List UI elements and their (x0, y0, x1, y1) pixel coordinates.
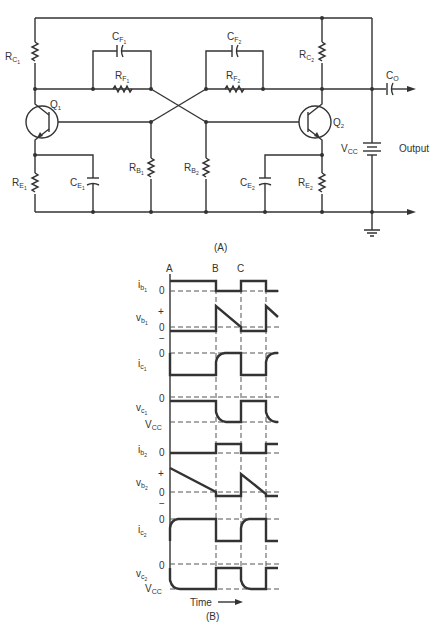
q1-transistor (26, 89, 151, 155)
output-arrow-icon (407, 86, 416, 92)
rb2-label: RB2 (184, 162, 199, 176)
wire (265, 155, 322, 212)
circuit-diagram: RC1 CF1 RF1 Q1 RB1 RB2 RE1 CE1 CF2 RF2 R… (5, 16, 429, 253)
re2-resistor (319, 173, 325, 192)
ic1-label: ic1 (138, 358, 147, 372)
co-label: CO (386, 70, 399, 82)
arrow-right-icon (235, 599, 243, 605)
rb1-label: RB1 (129, 162, 144, 176)
junction-dot (204, 210, 208, 214)
q2-label: Q2 (333, 117, 345, 129)
marker-c: C (237, 263, 244, 274)
re1-label: RE1 (12, 177, 27, 191)
ground-icon (364, 230, 380, 236)
rf2-resistor (225, 86, 244, 92)
part-a-caption: (A) (214, 242, 227, 253)
ce2-label: CE2 (240, 177, 255, 191)
vc2-vcc: VCC (145, 583, 162, 595)
junction-dot (320, 210, 324, 214)
rb2-resistor (203, 158, 209, 177)
ic2-label: ic2 (138, 524, 147, 538)
vc1-label: vc1 (136, 402, 148, 416)
cf1-label: CF1 (112, 31, 127, 45)
wire (206, 51, 263, 89)
junction-dot (370, 210, 374, 214)
cf2-label: CF2 (227, 31, 242, 45)
re1-resistor (32, 173, 38, 192)
junction-dot (204, 120, 208, 124)
vb1-zero: 0 (159, 322, 165, 333)
vb2-plus: + (158, 468, 164, 479)
vb1-label: vb1 (136, 312, 148, 326)
ic1-zero: 0 (159, 348, 165, 359)
ib2-waveform (170, 444, 278, 453)
output-label: Output (399, 143, 429, 154)
vb1-minus: − (159, 333, 165, 344)
ib1-label: ib1 (138, 279, 147, 293)
vc2-zero: 0 (159, 560, 165, 571)
vc1-waveform (170, 401, 278, 422)
vc1-zero: 0 (159, 393, 165, 404)
rb1-resistor (148, 158, 154, 177)
rf1-label: RF1 (115, 70, 130, 84)
ib2-label: ib2 (138, 444, 147, 458)
vb1-plus: + (158, 306, 164, 317)
multivibrator-figure: RC1 CF1 RF1 Q1 RB1 RB2 RE1 CE1 CF2 RF2 R… (0, 0, 444, 622)
vb2-minus: − (159, 498, 165, 509)
vc1-vcc: VCC (145, 419, 162, 431)
time-axis-label: Time (190, 597, 212, 608)
vcc-label: VCC (341, 143, 358, 155)
rc2-resistor (319, 42, 325, 61)
ib2-zero: 0 (159, 447, 165, 458)
vc2-waveform (170, 568, 278, 589)
rc1-label: RC1 (5, 51, 20, 65)
wire (35, 155, 93, 212)
rc2-label: RC2 (299, 49, 314, 63)
ib1-waveform (170, 281, 278, 291)
marker-b: B (212, 263, 219, 274)
ic1-waveform (170, 353, 278, 375)
ic2-zero: 0 (159, 514, 165, 525)
vb2-zero: 0 (159, 487, 165, 498)
junction-dot (91, 210, 95, 214)
rf1-resistor (113, 86, 132, 92)
junction-dot (263, 210, 267, 214)
rc1-resistor (32, 42, 38, 61)
vc2-label: vc2 (136, 568, 148, 582)
waveform-chart: A B C ib1 vb1 ic1 vc1 ib2 vb2 ic2 vc2 0 … (136, 263, 280, 622)
q1-label: Q1 (50, 99, 62, 111)
re2-label: RE2 (298, 177, 313, 191)
vb2-label: vb2 (136, 477, 148, 491)
output-arrow-icon (407, 209, 416, 215)
q2-transistor (206, 89, 331, 155)
marker-a: A (166, 263, 173, 274)
ce1-label: CE1 (70, 177, 85, 191)
ic2-waveform (170, 519, 278, 541)
part-b-caption: (B) (206, 611, 219, 622)
rf2-label: RF2 (226, 70, 241, 84)
ib1-zero: 0 (159, 285, 165, 296)
junction-dot (149, 210, 153, 214)
